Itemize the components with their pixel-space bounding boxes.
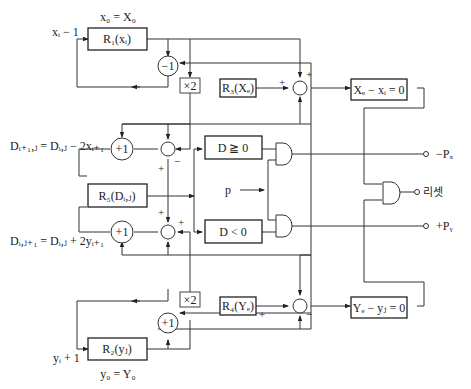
svg-text:R₅(Dᵢ,ⱼ): R₅(Dᵢ,ⱼ): [99, 189, 136, 203]
sum-node-y: [293, 299, 307, 313]
comparator-d-lt-zero: D < 0: [205, 220, 262, 243]
sum-node-x: [293, 81, 307, 95]
svg-text:−1: −1: [162, 59, 175, 73]
and-gate-reset: [383, 182, 400, 204]
svg-text:−: −: [174, 155, 180, 167]
plus-one-lower-node: +1: [111, 221, 133, 243]
svg-text:×2: ×2: [184, 293, 197, 307]
register-r5: R₅(Dᵢ,ⱼ): [88, 184, 147, 207]
svg-text:+1: +1: [116, 225, 129, 239]
comparator-y-done: Yₑ − yⱼ = 0: [351, 297, 407, 318]
sum-node-lower: [161, 225, 175, 239]
output-neg-px: −Pₓ: [436, 147, 453, 161]
svg-text:D ≧ 0: D ≧ 0: [218, 141, 249, 155]
svg-text:+: +: [158, 162, 164, 174]
svg-text:R₄(Yₑ): R₄(Yₑ): [222, 299, 254, 313]
svg-text:+1: +1: [162, 316, 175, 330]
register-r1: R₁(xᵢ): [88, 28, 147, 50]
svg-text:R₃(Xₑ): R₃(Xₑ): [222, 81, 254, 95]
register-r3: R₃(Xₑ): [220, 79, 256, 97]
svg-text:+: +: [306, 68, 312, 80]
label-y-init: y₀ = Y₀: [100, 367, 135, 381]
sum-node-upper: [161, 142, 175, 156]
and-gate-upper: [276, 143, 292, 165]
and-gate-lower: [276, 215, 292, 237]
comparator-d-ge-zero: D ≧ 0: [205, 136, 262, 159]
plus-one-upper-node: +1: [111, 138, 133, 160]
svg-text:R₂(yⱼ): R₂(yⱼ): [102, 342, 131, 356]
terminal-reset: [415, 190, 420, 195]
output-pos-py: +Pᵧ: [436, 219, 453, 233]
label-d-eq-lower: Dᵢ,ⱼ₊₁ = Dᵢ,ⱼ + 2yᵢ₊₁: [10, 234, 104, 248]
svg-text:R₁(xᵢ): R₁(xᵢ): [103, 32, 131, 46]
minus-one-node: −1: [158, 56, 178, 76]
svg-text:Yₑ − yⱼ = 0: Yₑ − yⱼ = 0: [353, 301, 405, 315]
label-x-init: x₀ = X₀: [100, 10, 136, 24]
times-two-upper: ×2: [180, 78, 200, 93]
block-diagram: R₁(xᵢ) R₂(yⱼ) R₃(Xₑ) R₄(Yₑ) R₅(Dᵢ,ⱼ) ×2 …: [0, 0, 471, 389]
sign-markers: + + − + + + + −: [158, 68, 312, 320]
svg-text:+1: +1: [116, 142, 129, 156]
times-two-lower: ×2: [180, 292, 200, 307]
svg-text:Xₑ − xᵢ = 0: Xₑ − xᵢ = 0: [353, 83, 404, 97]
svg-text:D < 0: D < 0: [219, 225, 246, 239]
svg-text:+: +: [158, 206, 164, 218]
comparator-x-done: Xₑ − xᵢ = 0: [351, 79, 407, 100]
label-y-input: yᵢ + 1: [53, 351, 80, 365]
svg-text:+: +: [259, 308, 265, 320]
register-r2: R₂(yⱼ): [88, 338, 147, 360]
label-d-eq-upper: Dᵢ₊₁,ⱼ = Dᵢ,ⱼ − 2xᵢ₊₁: [10, 139, 104, 153]
svg-text:−: −: [306, 308, 312, 320]
label-x-input: xᵢ − 1: [52, 25, 79, 39]
svg-text:+: +: [178, 216, 184, 228]
terminal-neg-px: [424, 152, 429, 157]
output-reset: 리셋: [423, 186, 443, 199]
svg-text:+: +: [279, 76, 285, 88]
register-r4: R₄(Yₑ): [220, 297, 256, 315]
svg-text:×2: ×2: [184, 79, 197, 93]
terminal-pos-py: [424, 224, 429, 229]
label-p-input: p: [225, 183, 231, 197]
plus-one-y-node: +1: [158, 313, 178, 333]
